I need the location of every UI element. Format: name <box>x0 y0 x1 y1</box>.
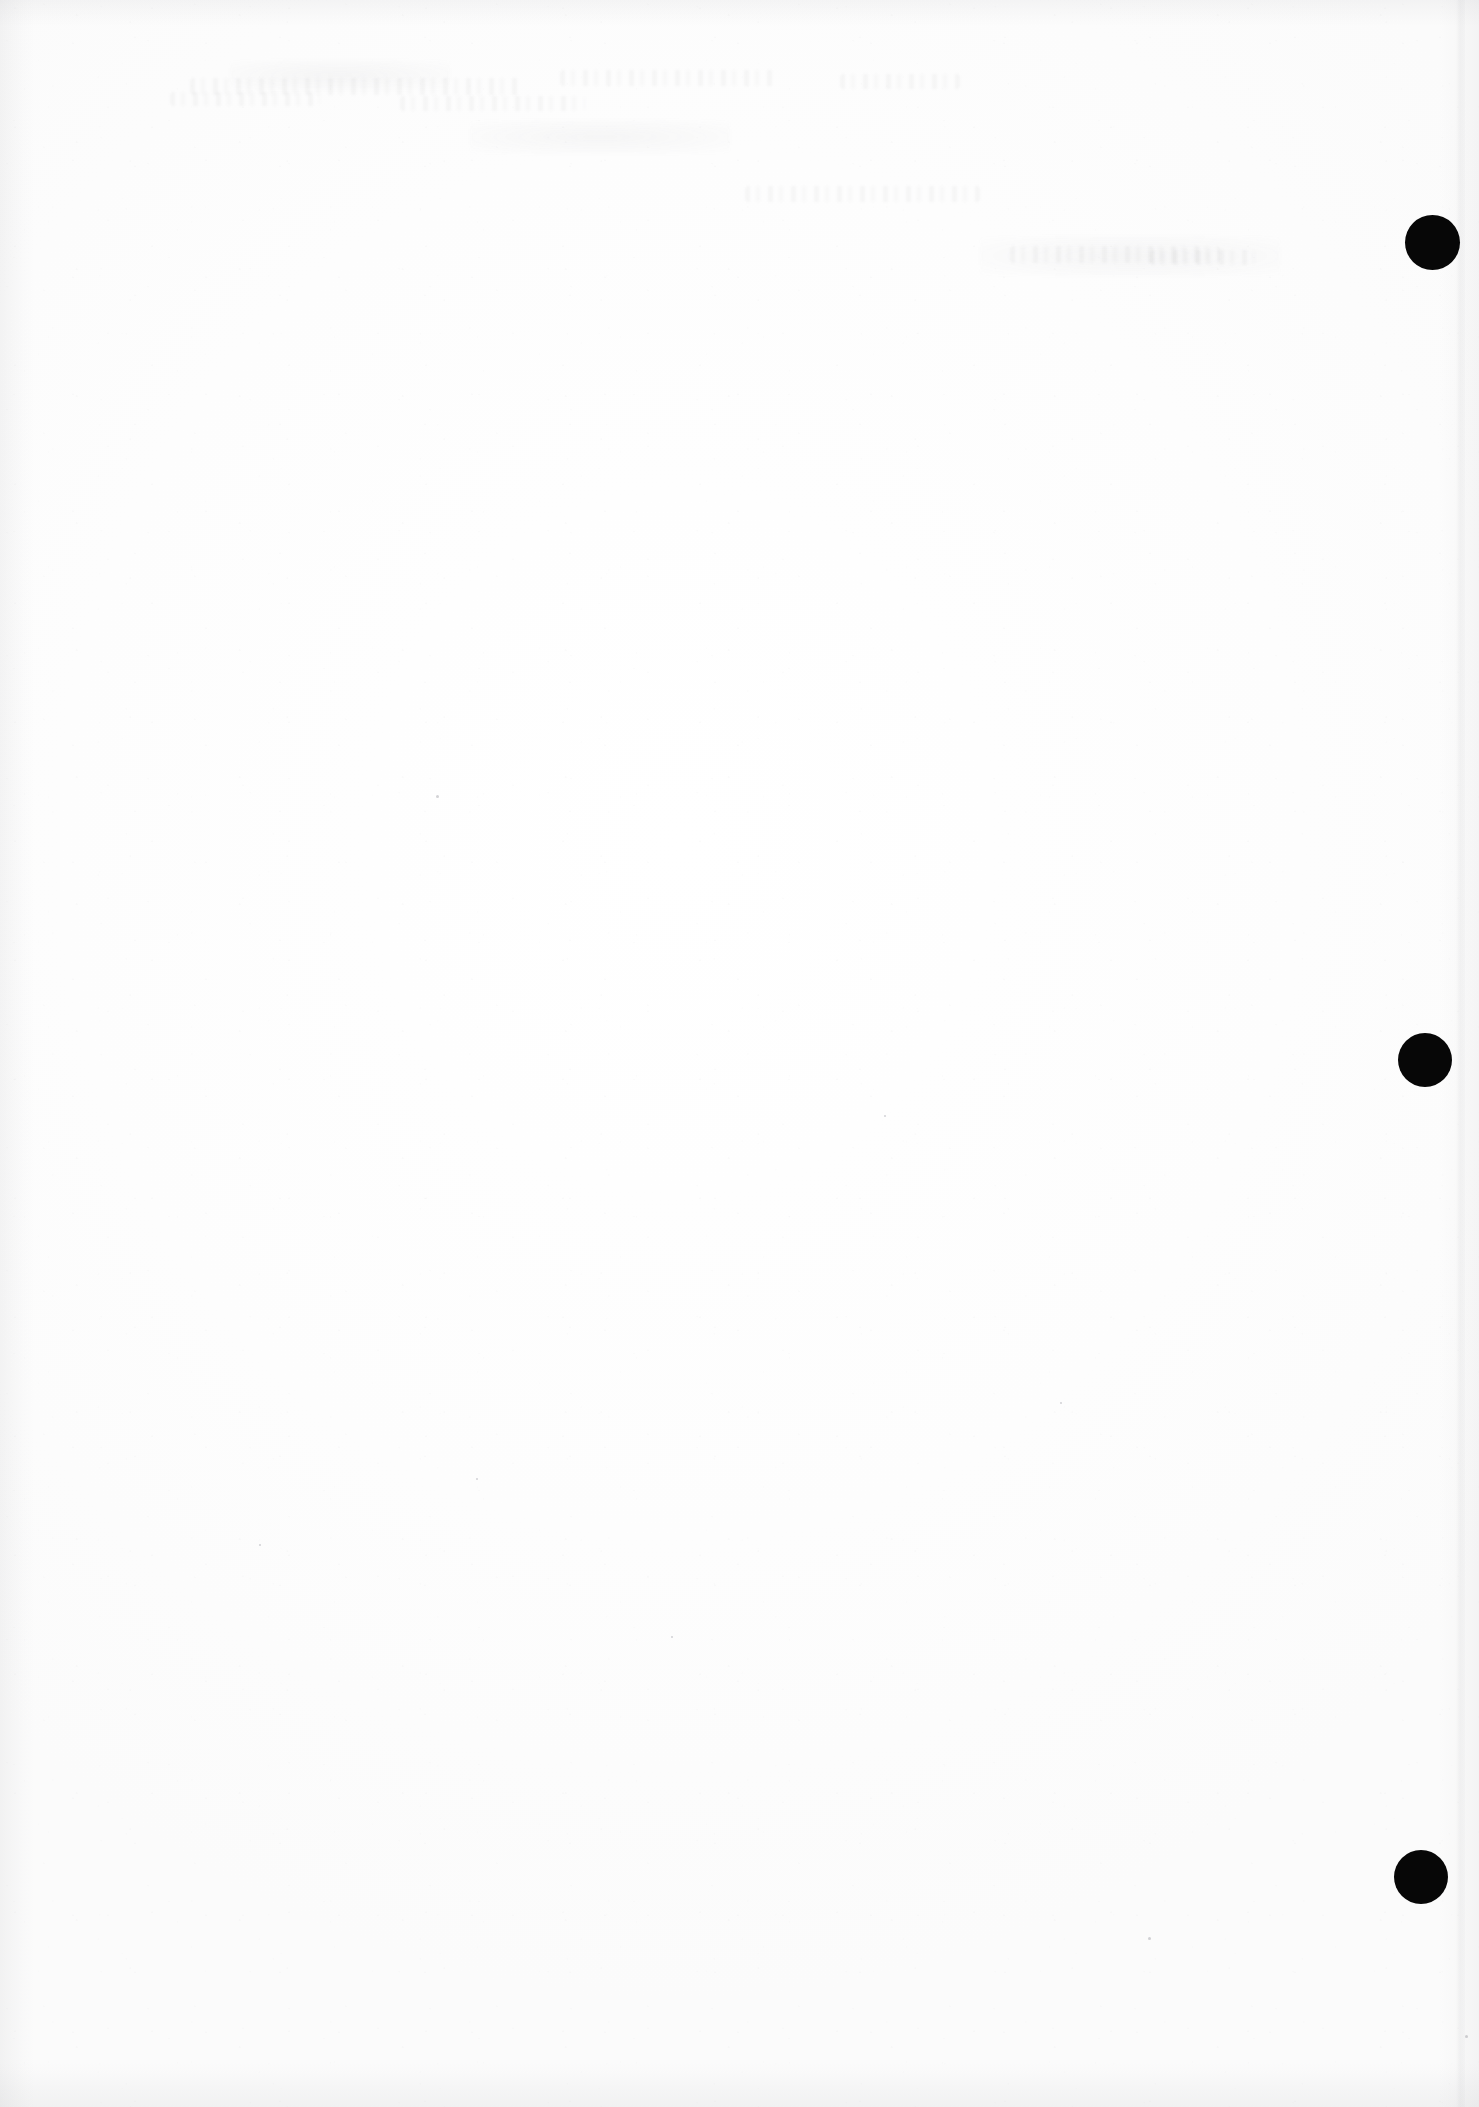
dust-speck <box>1148 1937 1151 1940</box>
scanned-page <box>0 0 1479 2107</box>
top-edge-shadow <box>0 0 1479 26</box>
registration-mark-middle <box>1398 1033 1452 1087</box>
left-edge-shadow <box>0 0 34 2107</box>
registration-mark-bottom <box>1394 1850 1448 1904</box>
right-edge-seam <box>1456 0 1465 2107</box>
page-body-text <box>150 150 1300 1850</box>
bottom-edge-shadow <box>0 2061 1479 2107</box>
dust-speck <box>1465 2035 1468 2038</box>
registration-mark-top <box>1405 215 1460 270</box>
